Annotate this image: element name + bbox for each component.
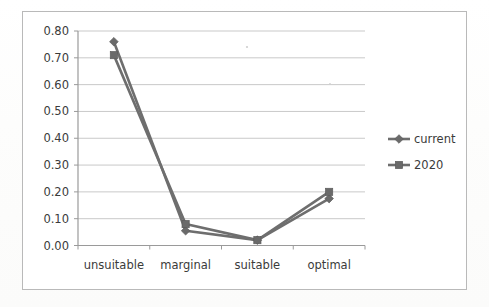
y-axis-tick-label: 0.80 [43, 24, 69, 38]
legend-item-2020[interactable]: 2020 [388, 158, 443, 172]
x-axis-tick-label: unsuitable [84, 258, 144, 272]
data-point-marker [110, 52, 117, 59]
x-axis-labels-group: unsuitablemarginalsuitableoptimal [84, 258, 351, 272]
legend-label: current [414, 132, 456, 146]
y-axis-tick-label: 0.70 [43, 51, 69, 65]
y-axis-tick-label: 0.00 [43, 239, 69, 253]
legend-label: 2020 [414, 158, 443, 172]
scan-speck-icon [329, 83, 331, 85]
x-axis-tick-label: optimal [307, 258, 350, 272]
diamond-marker-icon [395, 135, 404, 144]
x-axis-tick-label: marginal [160, 258, 211, 272]
scan-speck-icon [246, 46, 248, 48]
y-axis-tick-label: 0.60 [43, 78, 69, 92]
x-axis-tick-label: suitable [235, 258, 281, 272]
y-axis-tick-label: 0.30 [43, 158, 69, 172]
y-axis-tick-label: 0.10 [43, 212, 69, 226]
y-axis-labels-group: 0.000.100.200.300.400.500.600.700.80 [43, 24, 69, 253]
series-layer [110, 37, 334, 244]
chart-legend: current2020 [388, 132, 456, 172]
y-axis-tick-label: 0.50 [43, 104, 69, 118]
legend-item-current[interactable]: current [388, 132, 456, 146]
square-marker-icon [395, 161, 402, 168]
series-line [114, 55, 329, 240]
series-current [110, 37, 334, 244]
data-point-marker [182, 220, 189, 227]
data-point-marker [254, 237, 261, 244]
data-point-marker [326, 188, 333, 195]
y-axis-tick-label: 0.20 [43, 185, 69, 199]
y-axis-tick-label: 0.40 [43, 131, 69, 145]
data-point-marker [110, 37, 119, 46]
line-chart: 0.000.100.200.300.400.500.600.700.80 uns… [0, 0, 489, 307]
series-line [114, 42, 329, 240]
